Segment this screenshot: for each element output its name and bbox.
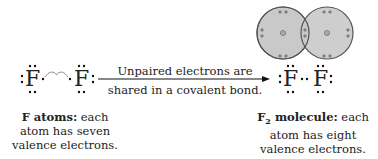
left-caption-line2: atom has seven	[0, 124, 130, 138]
left-caption-rest: each	[77, 110, 108, 124]
right-caption-line3: valence electrons.	[248, 142, 378, 156]
arrow-label-line1: Unpaired electrons are	[100, 63, 270, 79]
right-atom-1-symbol: F	[283, 66, 298, 92]
right-caption-bold-tail: molecule:	[271, 110, 338, 124]
arrow-label-line2: shared in a covalent bond.	[100, 82, 270, 98]
right-caption: F2 molecule: each atom has eight valence…	[248, 110, 378, 156]
right-atom-2-symbol: F	[313, 66, 328, 92]
left-atom-1-symbol: F	[25, 66, 40, 92]
right-caption-line2: atom has eight	[248, 128, 378, 142]
orbital-circles	[257, 7, 353, 59]
right-caption-rest: each	[338, 110, 369, 124]
left-caption: F atoms: each atom has seven valence ele…	[0, 110, 130, 152]
left-caption-bold: F atoms:	[22, 110, 78, 124]
right-caption-bold: F2 molecule:	[257, 110, 338, 124]
left-atom-2-symbol: F	[74, 66, 89, 92]
left-caption-line3: valence electrons.	[0, 138, 130, 152]
electron-movement-arrows	[45, 72, 68, 77]
